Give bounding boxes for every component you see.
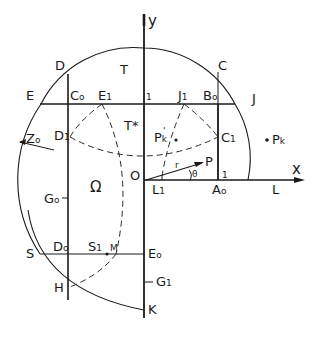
label-C0: Co (70, 88, 85, 103)
point-Pk-prime (174, 138, 177, 141)
label-J: J (251, 91, 256, 106)
label-A0: Ao (212, 182, 227, 197)
label-L1: L1 (152, 182, 165, 197)
label-one-right: 1 (222, 170, 228, 180)
label-Pk: Pk (272, 132, 286, 147)
label-E: E (26, 88, 34, 103)
lower-arc-H-K (28, 210, 144, 310)
label-P: P (205, 154, 213, 169)
point-M (105, 252, 108, 255)
label-sigma1: G1 (156, 274, 172, 289)
label-Z0: Zo (26, 131, 41, 146)
label-theta: θ (192, 169, 198, 179)
dashed-E1-S1-curve (102, 104, 123, 254)
theta-arc (189, 170, 191, 180)
label-r: r (175, 160, 179, 170)
label-x: x (292, 160, 301, 178)
label-Omega: Ω (90, 178, 101, 196)
label-J1: J1 (177, 88, 188, 103)
label-y: y (148, 12, 157, 30)
label-sigma0: Go (44, 191, 60, 206)
label-H: H (54, 280, 64, 295)
dashed-E1-D1 (70, 104, 102, 137)
label-T: T (119, 62, 128, 77)
dashed-J1-C1 (184, 104, 218, 137)
geometric-diagram: y x D T C E Co E1 1 J1 Bo J T* D1 Pk' C1… (0, 0, 321, 340)
label-O: O (130, 168, 140, 183)
label-L: L (272, 182, 280, 197)
label-C1: C1 (221, 130, 236, 145)
label-M: M (110, 243, 118, 253)
label-B0: Bo (203, 88, 218, 103)
label-E0: Eo (148, 246, 162, 261)
label-E1: E1 (98, 88, 112, 103)
label-S: S (26, 246, 34, 261)
dashed-S1-H (70, 254, 116, 287)
label-T-star: T* (123, 118, 139, 133)
label-D0: Do (53, 239, 69, 254)
label-C: C (218, 58, 227, 73)
point-Pk (265, 138, 269, 142)
label-Pk-prime: Pk' (154, 126, 168, 145)
label-S1: S1 (88, 239, 102, 254)
label-one-top: 1 (146, 92, 152, 102)
label-K: K (148, 302, 157, 317)
label-D: D (55, 58, 65, 73)
arrow-P-icon (194, 162, 204, 167)
diagram-canvas: y x D T C E Co E1 1 J1 Bo J T* D1 Pk' C1… (0, 0, 321, 340)
outer-circle-arc (18, 47, 251, 254)
